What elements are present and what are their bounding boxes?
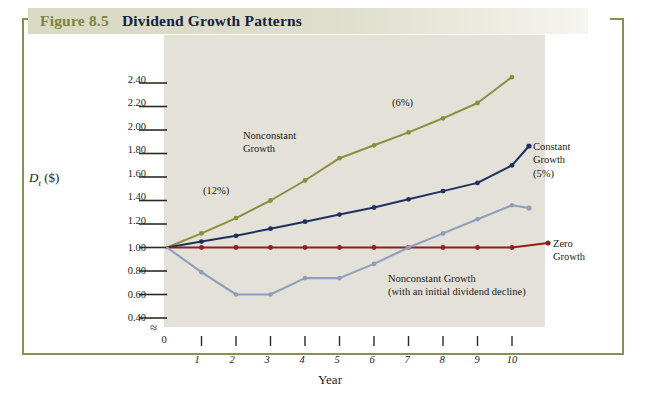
annotation-constant-growth-line1: Constant bbox=[533, 140, 570, 153]
series-3-point-8 bbox=[441, 231, 446, 236]
annotation-nonconstant-decline-line1: Nonconstant Growth bbox=[388, 272, 526, 285]
annotation-zero-growth: Zero Growth bbox=[553, 237, 585, 264]
series-1-point-6 bbox=[372, 205, 377, 210]
series-1-point-9 bbox=[475, 181, 480, 186]
annotation-rate-6-percent: (6%) bbox=[392, 96, 413, 109]
series-0-point-6 bbox=[372, 143, 377, 148]
series-0-point-9 bbox=[475, 101, 480, 106]
series-1-point-2 bbox=[234, 233, 239, 238]
series-2-point-9 bbox=[475, 245, 480, 250]
y-axis-tick-marks bbox=[139, 83, 167, 318]
annotation-zero-growth-line2: Growth bbox=[553, 250, 585, 263]
x-axis-tick-marks bbox=[202, 336, 513, 346]
series-3-point-4 bbox=[303, 276, 308, 281]
series-1-point-5 bbox=[337, 212, 342, 217]
series-2-point-3 bbox=[268, 245, 273, 250]
leader-zero-growth-endpoint bbox=[545, 240, 550, 245]
series-1-point-3 bbox=[268, 226, 273, 231]
series-2-point-2 bbox=[234, 245, 239, 250]
series-0-point-4 bbox=[303, 178, 308, 183]
annotation-nonconstant-decline-line2: (with an initial dividend decline) bbox=[388, 285, 526, 298]
series-0-point-2 bbox=[234, 216, 239, 221]
series-1-point-1 bbox=[199, 239, 204, 244]
series-2-point-1 bbox=[199, 245, 204, 250]
annotation-nonconstant-decline: Nonconstant Growth (with an initial divi… bbox=[388, 272, 526, 299]
series-2-point-8 bbox=[441, 245, 446, 250]
series-3-point-5 bbox=[337, 276, 342, 281]
series-line-1 bbox=[167, 165, 512, 247]
annotation-nonconstant-growth: Nonconstant Growth bbox=[243, 129, 296, 156]
series-3-point-1 bbox=[199, 270, 204, 275]
annotation-constant-growth: Constant Growth (5%) bbox=[533, 140, 570, 180]
series-3-point-6 bbox=[372, 262, 377, 267]
series-3-point-3 bbox=[268, 292, 273, 297]
series-3-point-7 bbox=[406, 245, 411, 250]
series-3-point-9 bbox=[475, 217, 480, 222]
series-0-point-5 bbox=[337, 156, 342, 161]
annotation-nonconstant-growth-line1: Nonconstant bbox=[243, 129, 296, 142]
series-1-point-7 bbox=[406, 197, 411, 202]
annotation-rate-12-percent: (12%) bbox=[203, 184, 229, 197]
series-1-point-4 bbox=[303, 219, 308, 224]
series-0-point-1 bbox=[199, 231, 204, 236]
leader-constant-growth bbox=[512, 146, 529, 165]
leader-constant-growth-endpoint bbox=[526, 143, 531, 148]
series-0-point-10 bbox=[510, 75, 515, 80]
series-0-point-3 bbox=[268, 198, 273, 203]
annotation-constant-growth-line2: Growth bbox=[533, 153, 570, 166]
leader-nonconstant-decline-endpoint bbox=[526, 205, 531, 210]
annotation-constant-growth-rate: (5%) bbox=[533, 167, 570, 180]
series-1-point-8 bbox=[441, 189, 446, 194]
series-2-point-6 bbox=[372, 245, 377, 250]
annotation-nonconstant-growth-line2: Growth bbox=[243, 142, 296, 155]
series-0-point-7 bbox=[406, 130, 411, 135]
figure-container: Figure 8.5 Dividend Growth Patterns Dt (… bbox=[0, 0, 647, 400]
series-2-point-4 bbox=[303, 245, 308, 250]
annotation-zero-growth-line1: Zero bbox=[553, 237, 585, 250]
series-0-point-8 bbox=[441, 116, 446, 121]
leader-zero-growth bbox=[512, 243, 548, 248]
series-3-point-2 bbox=[234, 292, 239, 297]
series-line-0 bbox=[167, 77, 512, 247]
series-2-point-5 bbox=[337, 245, 342, 250]
chart-plot bbox=[0, 0, 647, 400]
